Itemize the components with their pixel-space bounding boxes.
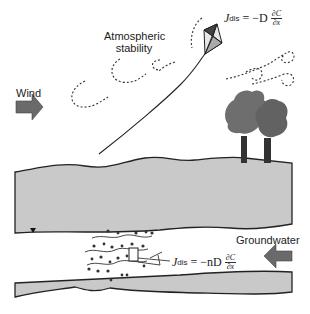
air-flux-equation: Jdis = −D ∂C ∂x [224, 10, 282, 27]
gradient-denominator: ∂x [273, 19, 281, 27]
aquitard-layer [15, 271, 292, 297]
atmospheric-label-line1: Atmospheric [104, 30, 164, 42]
gradient-denominator: ∂x [227, 263, 235, 271]
flux-subscript: dis [229, 14, 239, 23]
gradient-fraction: ∂C ∂x [225, 254, 236, 271]
groundwater-label: Groundwater [236, 234, 300, 246]
contaminant-plume [85, 235, 162, 265]
groundwater-arrow [264, 244, 292, 268]
atmospheric-label-line2: stability [104, 42, 164, 54]
gradient-fraction: ∂C ∂x [271, 10, 282, 27]
control-volume [129, 248, 138, 261]
kite [204, 24, 222, 54]
flux-subscript: dis [177, 258, 187, 267]
groundwater-flux-equation: Jdis = −nD ∂C ∂x [172, 254, 236, 271]
leader-line [138, 258, 170, 261]
trees [225, 90, 287, 163]
unsaturated-soil-layer [15, 157, 292, 233]
atmospheric-stability-label: Atmospheric stability [104, 30, 164, 54]
flux-rhs: = −nD [191, 255, 222, 270]
wind-label: Wind [16, 87, 41, 99]
flux-rhs: = −D [243, 11, 268, 26]
kite-string [99, 54, 205, 154]
